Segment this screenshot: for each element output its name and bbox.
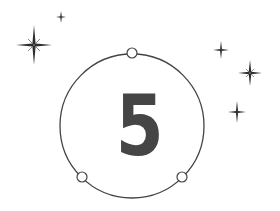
sparkle-right-lower-icon xyxy=(228,101,246,123)
large-sparkle-icon xyxy=(16,25,52,65)
sparkle-right-middle-icon xyxy=(238,60,262,86)
ring-node-top xyxy=(127,48,137,58)
badge-number: 5 xyxy=(116,86,150,166)
ring-node-bottom-right xyxy=(177,172,187,182)
small-sparkle-icon xyxy=(56,11,66,23)
sparkle-right-upper-icon xyxy=(213,41,229,59)
ring-node-bottom-left xyxy=(77,172,87,182)
